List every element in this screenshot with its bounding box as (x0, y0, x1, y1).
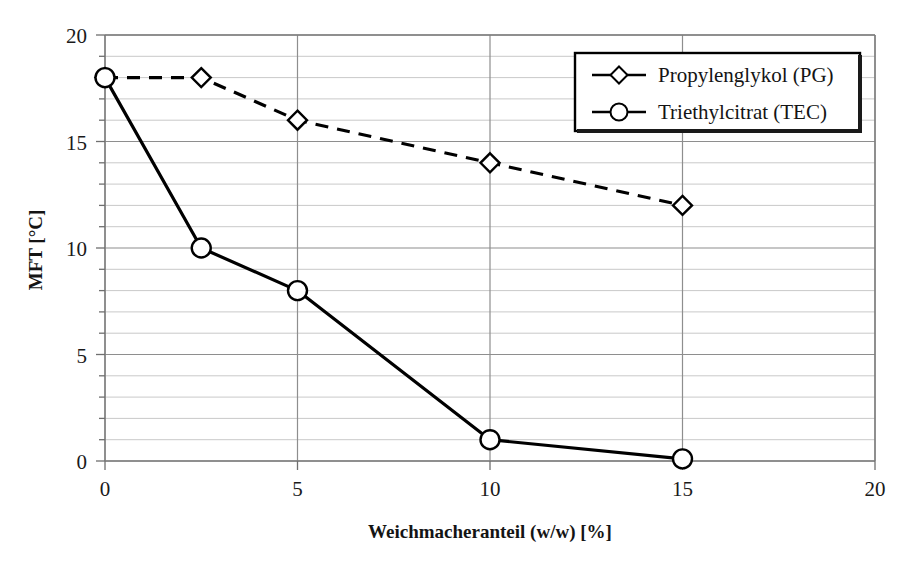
line-chart: 05101520 05101520 MFT [°C] Weichmacheran… (0, 0, 921, 574)
legend-shadow-right (858, 55, 862, 133)
y-axis-title: MFT [°C] (25, 210, 46, 291)
legend-label-triethylcitrat: Triethylcitrat (TEC) (658, 100, 827, 124)
data-point-circle (96, 68, 115, 87)
x-tick-label: 20 (865, 477, 886, 501)
data-point-circle (673, 449, 692, 468)
y-tick-label: 20 (66, 24, 87, 48)
legend-label-propylenglykol: Propylenglykol (PG) (658, 63, 834, 87)
chart-legend: Propylenglykol (PG) Triethylcitrat (TEC) (575, 53, 862, 133)
y-tick-label: 0 (77, 450, 88, 474)
x-axis-title: Weichmacheranteil (w/w) [%] (368, 521, 612, 543)
y-tick-label: 15 (66, 131, 87, 155)
x-tick-label: 5 (292, 477, 303, 501)
y-tick-label: 10 (66, 237, 87, 261)
y-tick-label: 5 (77, 344, 88, 368)
data-point-circle (288, 281, 307, 300)
x-tick-label: 0 (100, 477, 111, 501)
data-point-circle (192, 239, 211, 258)
chart-figure: 05101520 05101520 MFT [°C] Weichmacheran… (0, 0, 921, 574)
x-tick-label: 10 (480, 477, 501, 501)
data-point-circle (481, 430, 500, 449)
circle-marker-icon (611, 104, 628, 121)
x-tick-label: 15 (672, 477, 693, 501)
legend-shadow-bottom (577, 129, 862, 133)
